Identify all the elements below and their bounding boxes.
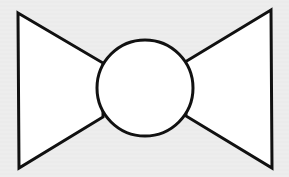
diagram-canvas: [0, 0, 289, 177]
bow-tie-diagram: [0, 0, 289, 177]
left-triangle: [18, 13, 103, 168]
right-triangle: [185, 10, 272, 168]
center-circle: [97, 40, 193, 136]
